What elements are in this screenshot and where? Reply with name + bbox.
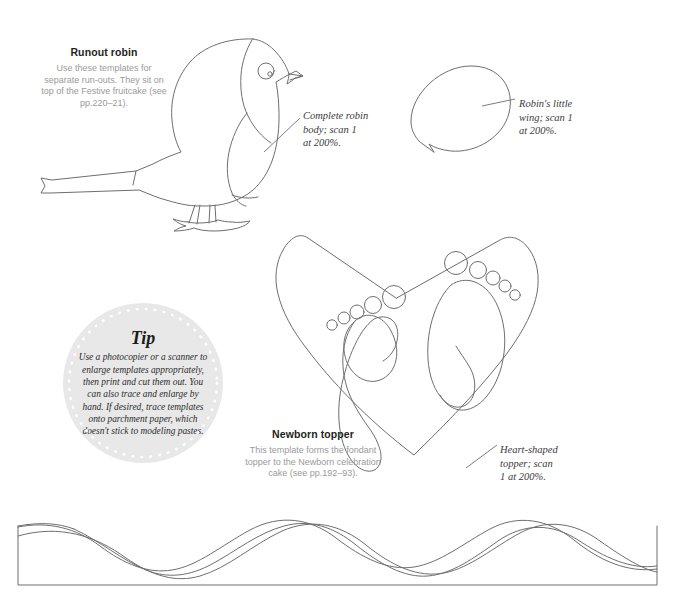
caption-newborn-topper: Newborn topper This template forms the f… xyxy=(245,428,381,480)
braid-band-outline xyxy=(18,520,657,585)
templates-page: Runout robin Use these templates for sep… xyxy=(0,0,674,615)
caption-runout-robin: Runout robin Use these templates for sep… xyxy=(40,46,168,109)
tip-title: Tip xyxy=(131,328,155,348)
tip-body: Use a photocopier or a scanner to enlarg… xyxy=(77,351,209,437)
caption-heading: Runout robin xyxy=(40,46,168,59)
caption-body: This template forms the fondant topper t… xyxy=(245,445,381,480)
leader-heart-topper xyxy=(466,445,497,468)
caption-body: Use these templates for separate run-out… xyxy=(40,63,168,109)
tip-callout: Tip Use a photocopier or a scanner to en… xyxy=(63,303,223,463)
leader-robin-body xyxy=(264,118,300,152)
leader-robin-wing xyxy=(482,99,515,106)
annotation-heart-topper: Heart-shaped topper; scan 1 at 200%. xyxy=(500,443,558,484)
wing-outline xyxy=(411,66,510,152)
annotation-robin-wing: Robin's little wing; scan 1 at 200%. xyxy=(519,97,573,138)
caption-heading: Newborn topper xyxy=(245,428,381,441)
annotation-robin-body: Complete robin body; scan 1 at 200%. xyxy=(303,109,368,150)
